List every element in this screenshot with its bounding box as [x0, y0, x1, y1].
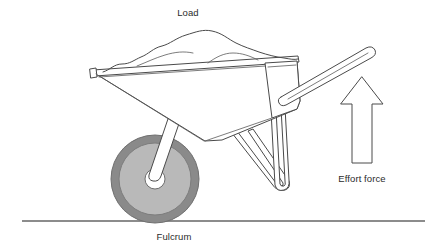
wheelbarrow-lever-figure: Load Effort force Fulcrum — [0, 0, 441, 252]
effort-arrow — [341, 77, 383, 163]
load-label: Load — [177, 7, 199, 18]
fulcrum-label: Fulcrum — [156, 231, 191, 242]
leg-front-rail — [232, 129, 290, 190]
effort-arrow-shape — [341, 77, 383, 163]
tray-rim-left-cap — [90, 68, 97, 78]
effort-force-label: Effort force — [338, 173, 386, 184]
tray — [90, 56, 300, 141]
diagram-canvas: Load Effort force Fulcrum — [0, 0, 441, 252]
